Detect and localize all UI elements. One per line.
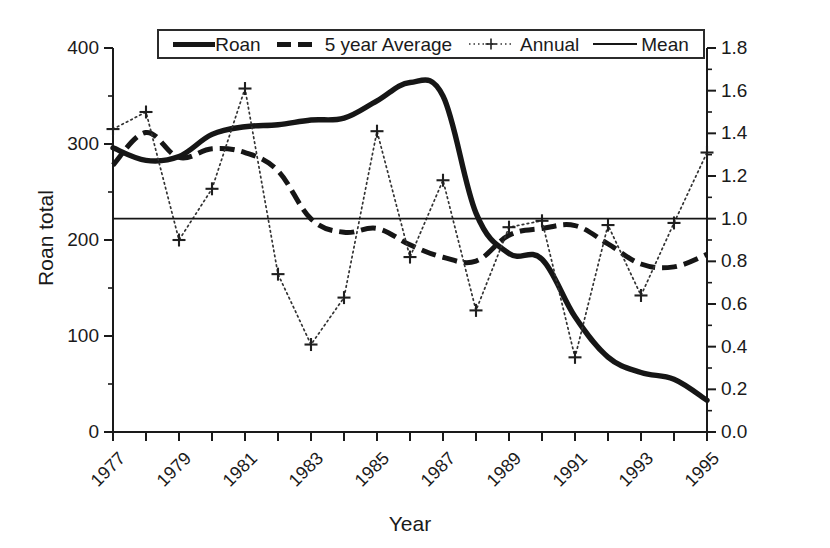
annual-marker-plus-icon <box>173 234 186 247</box>
legend-entry-mean[interactable]: Mean <box>593 31 689 57</box>
legend-label-5-year-average: 5 year Average <box>325 35 452 54</box>
y-axis-right-tick-label: 1.6 <box>721 80 767 102</box>
y-axis-right-ticks <box>707 48 716 432</box>
y-axis-left-tick-label: 100 <box>49 325 99 347</box>
annual-marker-plus-icon <box>338 291 351 304</box>
annual-marker-plus-icon <box>107 123 120 136</box>
annual-marker-plus-icon <box>239 82 252 95</box>
annual-marker-plus-icon <box>503 221 516 234</box>
annual-marker-plus-icon <box>206 182 219 195</box>
legend-entry-5-year-average[interactable]: 5 year Average <box>277 31 452 57</box>
annual-marker-plus-icon <box>272 268 285 281</box>
dashed-line-icon <box>277 42 317 47</box>
chart-figure: 0100200300400 0.00.20.40.60.81.01.21.41.… <box>0 0 830 548</box>
y-axis-left-title: Roan total <box>34 158 58 318</box>
annual-marker-plus-icon <box>602 219 615 232</box>
dotted-plus-line-icon <box>468 37 514 51</box>
data-series-layer <box>107 80 714 400</box>
annual-marker-plus-icon <box>635 289 648 302</box>
legend-label-roan: Roan <box>215 35 260 54</box>
y-axis-left-tick-label: 400 <box>49 37 99 59</box>
y-axis-right-tick-label: 1.4 <box>721 122 767 144</box>
y-axis-right-tick-label: 1.8 <box>721 37 767 59</box>
annual-marker-plus-icon <box>701 146 714 159</box>
series-roan <box>113 80 707 400</box>
annual-marker-plus-icon <box>470 304 483 317</box>
annual-marker-plus-icon <box>140 106 153 119</box>
series-annual <box>107 82 714 364</box>
y-axis-right-tick-label: 0.4 <box>721 336 767 358</box>
annual-marker-plus-icon <box>437 174 450 187</box>
axis-lines <box>113 48 707 432</box>
y-axis-left-ticks <box>104 48 113 432</box>
annual-marker-plus-icon <box>305 338 318 351</box>
y-axis-right-tick-label: 0.0 <box>721 421 767 443</box>
y-axis-right-tick-label: 1.2 <box>721 165 767 187</box>
y-axis-right-tick-label: 0.8 <box>721 250 767 272</box>
y-axis-right-tick-label: 0.6 <box>721 293 767 315</box>
y-axis-left-tick-label: 0 <box>49 421 99 443</box>
x-axis-title: Year <box>370 512 450 536</box>
x-axis-ticks <box>113 432 707 441</box>
legend-entry-annual[interactable]: Annual <box>468 31 579 57</box>
annual-marker-plus-icon <box>569 351 582 364</box>
annual-marker-plus-icon <box>404 251 417 264</box>
y-axis-left-tick-label: 300 <box>49 133 99 155</box>
legend-entry-roan[interactable]: Roan <box>173 31 260 57</box>
y-axis-right-tick-label: 0.2 <box>721 378 767 400</box>
solid-thin-line-icon <box>593 43 637 45</box>
solid-thick-line-icon <box>173 42 215 47</box>
annual-marker-plus-icon <box>371 125 384 138</box>
y-axis-right-tick-label: 1.0 <box>721 208 767 230</box>
chart-legend: Roan 5 year Average Annual Mean <box>157 29 705 59</box>
legend-label-annual: Annual <box>520 35 579 54</box>
legend-label-mean: Mean <box>641 35 689 54</box>
